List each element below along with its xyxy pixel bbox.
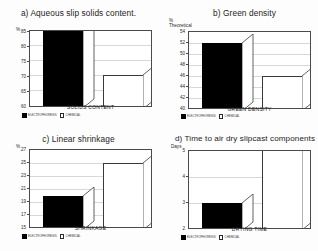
legend-label-chemical: CHEMICAL — [66, 234, 81, 238]
panel-b-plot-area — [188, 31, 311, 109]
panel-a-ytick-5: 60 — [0, 104, 26, 109]
panel-a-ytick-0: 85 — [0, 29, 26, 34]
panel-b-ytick-7: 40 — [155, 106, 185, 111]
bar-electrophoresis-b-side — [242, 34, 254, 109]
bar-electrophoresis-c — [43, 196, 84, 228]
panel-b-axis-unit-line2: Theoretical — [169, 23, 192, 28]
bar-electrophoresis-a-side — [83, 30, 95, 107]
legend-entry-chemical: CHEMICAL — [60, 113, 81, 118]
legend-entry-electrophoresis: ELECTROPHORESIS — [22, 113, 57, 118]
panel-c-plot-area — [29, 149, 152, 228]
bar-electrophoresis-d-side — [242, 194, 254, 229]
panel-a-legend: ELECTROPHORESIS CHEMICAL — [22, 113, 81, 118]
chart-panel-b: b) Green density % Theoretical 54 52 50 … — [159, 0, 318, 125]
panel-d-ytick-0: 5 — [155, 148, 185, 153]
panel-b-legend: ELECTROPHORESIS CHEMICAL — [181, 114, 240, 119]
chart-panel-c: c) Linear shrinkage % 27 25 23 21 19 17 … — [0, 126, 159, 251]
bar-chemical-b — [262, 76, 303, 109]
panel-c-ytick-2: 23 — [0, 173, 26, 178]
bar-electrophoresis-a — [43, 30, 84, 107]
panel-b-ytick-5: 44 — [155, 84, 185, 89]
panel-d-legend: ELECTROPHORESIS CHEMICAL — [181, 235, 240, 240]
legend-swatch-solid-icon — [181, 114, 186, 119]
panel-d-ytick-3: 2 — [155, 226, 185, 231]
legend-label-chemical: CHEMICAL — [225, 235, 240, 239]
panel-b-ytick-1: 52 — [155, 40, 185, 45]
legend-swatch-solid-icon — [181, 235, 186, 240]
panel-c-ytick-5: 17 — [0, 212, 26, 217]
legend-label-electrophoresis: ELECTROPHORESIS — [28, 234, 57, 238]
bar-chemical-a-side — [143, 66, 152, 107]
panel-b-ytick-6: 42 — [155, 95, 185, 100]
chart-panel-d: d) Time to air dry slipcast components D… — [159, 126, 318, 251]
legend-entry-chemical: CHEMICAL — [60, 234, 81, 239]
legend-entry-electrophoresis: ELECTROPHORESIS — [181, 235, 216, 240]
legend-swatch-hollow-icon — [219, 114, 224, 119]
bar-chemical-d — [262, 150, 303, 229]
legend-entry-chemical: CHEMICAL — [219, 114, 240, 119]
panel-c-ytick-3: 21 — [0, 186, 26, 191]
panel-b-ytick-4: 46 — [155, 73, 185, 78]
panel-b-ytick-0: 54 — [155, 29, 185, 34]
legend-swatch-hollow-icon — [60, 234, 65, 239]
bar-chemical-a — [103, 75, 144, 107]
panel-d-ytick-1: 4 — [155, 174, 185, 179]
panel-a-ytick-4: 65 — [0, 89, 26, 94]
bar-chemical-c-side — [143, 154, 152, 228]
panel-c-ytick-4: 19 — [0, 199, 26, 204]
panel-b-ytick-3: 48 — [155, 62, 185, 67]
chart-panel-a: a) Aqueous slip solids content. % 85 80 … — [0, 0, 159, 125]
bar-electrophoresis-c-side — [83, 187, 95, 228]
panel-d-category-label: DRYING TIME — [188, 226, 311, 232]
legend-label-electrophoresis: ELECTROPHORESIS — [187, 114, 216, 118]
panel-a-plot-area — [29, 30, 152, 107]
legend-entry-electrophoresis: ELECTROPHORESIS — [22, 234, 57, 239]
bar-chemical-c — [103, 163, 144, 228]
panel-c-legend: ELECTROPHORESIS CHEMICAL — [22, 234, 81, 239]
panel-b-title: b) Green density — [173, 8, 316, 18]
panel-c-ytick-0: 27 — [0, 147, 26, 152]
panel-a-ytick-1: 80 — [0, 44, 26, 49]
panel-a-ytick-2: 75 — [0, 59, 26, 64]
legend-swatch-hollow-icon — [60, 113, 65, 118]
legend-label-electrophoresis: ELECTROPHORESIS — [28, 113, 57, 117]
legend-entry-chemical: CHEMICAL — [219, 235, 240, 240]
panel-d-plot-area — [188, 150, 311, 229]
panel-a-ytick-3: 70 — [0, 74, 26, 79]
panel-c-title: c) Linear shrinkage — [0, 134, 157, 144]
panel-b-category-label: GREEN DENSITY — [188, 106, 311, 112]
legend-label-electrophoresis: ELECTROPHORESIS — [187, 235, 216, 239]
legend-swatch-hollow-icon — [219, 235, 224, 240]
legend-swatch-solid-icon — [22, 113, 27, 118]
figure-container: a) Aqueous slip solids content. % 85 80 … — [0, 0, 318, 251]
panel-c-category-label: SHRINKAGE — [29, 225, 152, 231]
panel-d-title: d) Time to air dry slipcast components — [175, 134, 316, 143]
panel-a-title: a) Aqueous slip solids content. — [0, 8, 157, 18]
bar-chemical-b-side — [302, 67, 311, 109]
bar-electrophoresis-b — [202, 43, 243, 109]
panel-d-ytick-2: 3 — [155, 200, 185, 205]
panel-c-ytick-1: 25 — [0, 160, 26, 165]
legend-label-chemical: CHEMICAL — [66, 113, 81, 117]
panel-c-ytick-6: 15 — [0, 225, 26, 230]
panel-a-category-label: SOLIDS CONTENT — [29, 104, 152, 110]
legend-swatch-solid-icon — [22, 234, 27, 239]
legend-entry-electrophoresis: ELECTROPHORESIS — [181, 114, 216, 119]
bar-chemical-d-side — [302, 150, 311, 229]
panel-b-ytick-2: 50 — [155, 51, 185, 56]
legend-label-chemical: CHEMICAL — [225, 114, 240, 118]
